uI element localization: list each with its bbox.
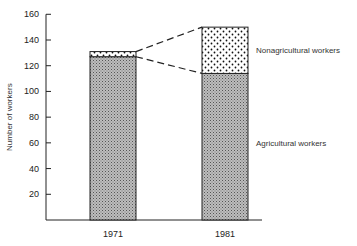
y-axis-label: Number of workers (5, 83, 14, 151)
x-tick-label: 1971 (103, 229, 123, 239)
y-tick-label: 20 (29, 189, 39, 199)
y-tick-label: 40 (29, 164, 39, 174)
legend-label-nonagricultural: Nonagricultural workers (256, 46, 340, 55)
y-tick-label: 120 (24, 61, 39, 71)
bar-segment-agricultural (90, 57, 136, 220)
connector-line-top (136, 27, 202, 51)
bar-segment-nonagricultural (90, 52, 136, 57)
y-tick-label: 80 (29, 112, 39, 122)
x-tick-label: 1981 (215, 229, 235, 239)
y-tick-label: 140 (24, 35, 39, 45)
y-tick-label: 100 (24, 86, 39, 96)
bars (90, 27, 248, 220)
chart: 20406080100120140160Number of workers 19… (0, 0, 357, 246)
legend-label-agricultural: Agricultural workers (256, 139, 326, 148)
connector-line-bottom (136, 57, 202, 74)
bar-segment-nonagricultural (202, 27, 248, 73)
y-tick-label: 160 (24, 9, 39, 19)
bar-segment-agricultural (202, 73, 248, 220)
y-tick-label: 60 (29, 138, 39, 148)
